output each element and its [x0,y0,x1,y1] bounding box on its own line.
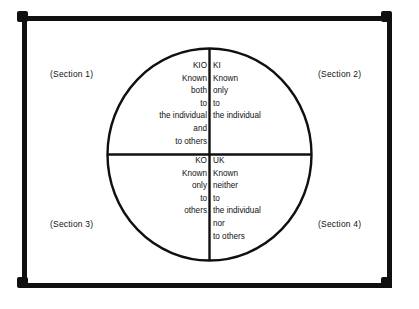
section-label-2: (Section 2) [318,69,361,79]
frame-corner-top-right-marker [381,11,392,22]
quadrant-uk-line-1: UK [213,155,261,168]
frame-corner-bottom-right-marker [381,277,392,288]
section-label-3: (Section 3) [50,219,93,229]
quadrant-text-kio: KIO Known both to the individual and to … [159,60,207,148]
quadrant-uk-line-7: to others [213,231,261,244]
frame-corner-top-left-marker [17,11,28,22]
quadrant-ko-line-3: only [182,180,207,193]
quadrant-text-uk: UK Known neither to the individual nor t… [213,155,261,243]
quadrant-ki-line-2: Known [213,73,261,86]
section-label-1: (Section 1) [50,69,93,79]
section-label-4: (Section 4) [318,219,361,229]
quadrant-circle [105,46,314,263]
quadrant-uk-line-2: Known [213,168,261,181]
quadrant-ko-line-4: to [182,193,207,206]
quadrant-kio-line-6: and [159,123,207,136]
diagram-page: (Section 1) (Section 2) (Section 3) (Sec… [0,0,419,309]
quadrant-kio-line-3: both [159,85,207,98]
quadrant-uk-line-6: nor [213,218,261,231]
quadrant-kio-line-5: the individual [159,110,207,123]
quadrant-kio-line-2: Known [159,73,207,86]
quadrant-ko-line-5: others [182,205,207,218]
quadrant-uk-line-4: to [213,193,261,206]
quadrant-text-ko: KO Known only to others [182,155,207,218]
quadrant-text-ki: KI Known only to the individual [213,60,261,123]
quadrant-ki-line-4: to [213,98,261,111]
quadrant-ko-line-1: KO [182,155,207,168]
quadrant-ki-line-5: the individual [213,110,261,123]
quadrant-ko-line-2: Known [182,168,207,181]
quadrant-kio-line-1: KIO [159,60,207,73]
quadrant-uk-line-5: the individual [213,205,261,218]
quadrant-kio-line-7: to others [159,136,207,149]
quadrant-kio-line-4: to [159,98,207,111]
quadrant-uk-line-3: neither [213,180,261,193]
quadrant-ki-line-3: only [213,85,261,98]
frame-corner-bottom-left-marker [17,277,28,288]
quadrant-ki-line-1: KI [213,60,261,73]
